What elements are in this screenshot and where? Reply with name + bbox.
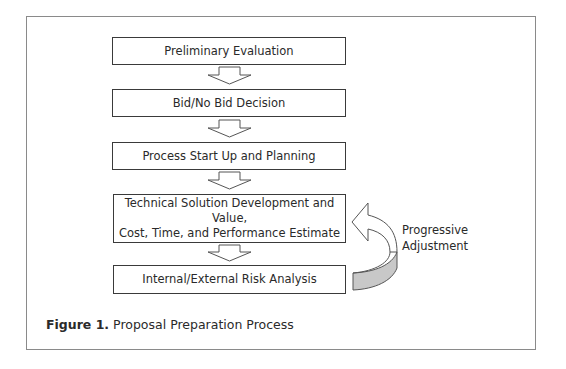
down-arrow-icon bbox=[208, 120, 251, 137]
diagram-arrows bbox=[0, 0, 566, 369]
down-arrow-icon bbox=[208, 172, 251, 189]
down-arrow-icon bbox=[208, 67, 251, 84]
caption-text: Proposal Preparation Process bbox=[109, 317, 294, 332]
feedback-label-line1: Progressive bbox=[402, 222, 468, 238]
down-arrow-icon bbox=[208, 245, 251, 261]
figure-caption: Figure 1. Proposal Preparation Process bbox=[46, 317, 294, 332]
feedback-label-line2: Adjustment bbox=[402, 238, 468, 254]
curved-feedback-arrow-icon bbox=[352, 203, 397, 290]
progressive-adjustment-label: Progressive Adjustment bbox=[402, 222, 468, 254]
caption-prefix: Figure 1. bbox=[46, 317, 109, 332]
